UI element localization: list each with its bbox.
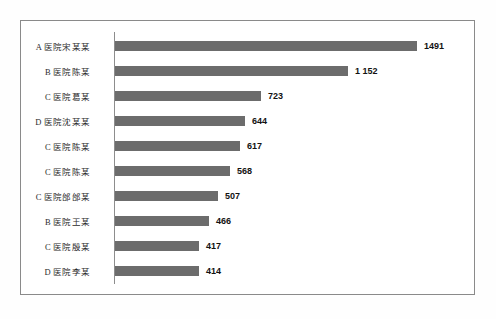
bar[interactable]: [115, 116, 245, 126]
bar[interactable]: [115, 266, 199, 276]
bar-value-label: 723: [268, 91, 283, 101]
bar-fill: [115, 116, 245, 126]
bar-row[interactable]: C 医院葛某723: [21, 83, 474, 108]
bar[interactable]: [115, 141, 240, 151]
bar[interactable]: [115, 66, 348, 76]
chart-figure-frame: A 医院宋某某1491B 医院陈某1 152C 医院葛某723D 医院沈某某64…: [20, 20, 475, 295]
bar-value-label: 1 152: [355, 66, 378, 76]
bar-fill: [115, 241, 199, 251]
bar-category-label: D 医院李某: [45, 265, 90, 277]
bar-row[interactable]: B 医院陈某1 152: [21, 58, 474, 83]
bar-fill: [115, 66, 348, 76]
bar[interactable]: [115, 241, 199, 251]
bar-row[interactable]: C 医院邰邰某507: [21, 183, 474, 208]
bar[interactable]: [115, 91, 261, 101]
bar-value-label: 466: [216, 216, 231, 226]
bar-fill: [115, 141, 240, 151]
bar-fill: [115, 266, 199, 276]
bar-fill: [115, 41, 417, 51]
bar[interactable]: [115, 41, 417, 51]
bar-value-label: 417: [206, 241, 221, 251]
bar-fill: [115, 91, 261, 101]
bar-value-label: 414: [206, 266, 221, 276]
bar-row[interactable]: C 医院陈某568: [21, 158, 474, 183]
bar-value-label: 568: [237, 166, 252, 176]
bar-row[interactable]: B 医院王某466: [21, 208, 474, 233]
plot-area: A 医院宋某某1491B 医院陈某1 152C 医院葛某723D 医院沈某某64…: [21, 21, 474, 294]
bar-value-label: 507: [225, 191, 240, 201]
bar-row[interactable]: C 医院殷某417: [21, 233, 474, 258]
bar-category-label: C 医院殷某: [45, 240, 90, 252]
bar-fill: [115, 166, 230, 176]
bar[interactable]: [115, 216, 209, 226]
bar-row[interactable]: C 医院陈某617: [21, 133, 474, 158]
bar-row[interactable]: D 医院李某414: [21, 258, 474, 283]
bar-fill: [115, 191, 218, 201]
bar-category-label: A 医院宋某某: [36, 40, 90, 52]
bar-category-label: B 医院陈某: [45, 65, 90, 77]
bar[interactable]: [115, 166, 230, 176]
bar-value-label: 644: [252, 116, 267, 126]
bar-category-label: C 医院陈某: [45, 165, 90, 177]
bar[interactable]: [115, 191, 218, 201]
bar-category-label: C 医院葛某: [45, 90, 90, 102]
bar-category-label: C 医院邰邰某: [36, 190, 90, 202]
bar-value-label: 617: [247, 141, 262, 151]
bar-category-label: C 医院陈某: [45, 140, 90, 152]
page-background: A 医院宋某某1491B 医院陈某1 152C 医院葛某723D 医院沈某某64…: [0, 0, 496, 319]
bar-row[interactable]: D 医院沈某某644: [21, 108, 474, 133]
bar-value-label: 1491: [424, 41, 444, 51]
bar-fill: [115, 216, 209, 226]
bar-category-label: D 医院沈某某: [35, 115, 90, 127]
bar-row[interactable]: A 医院宋某某1491: [21, 33, 474, 58]
bar-category-label: B 医院王某: [45, 215, 90, 227]
